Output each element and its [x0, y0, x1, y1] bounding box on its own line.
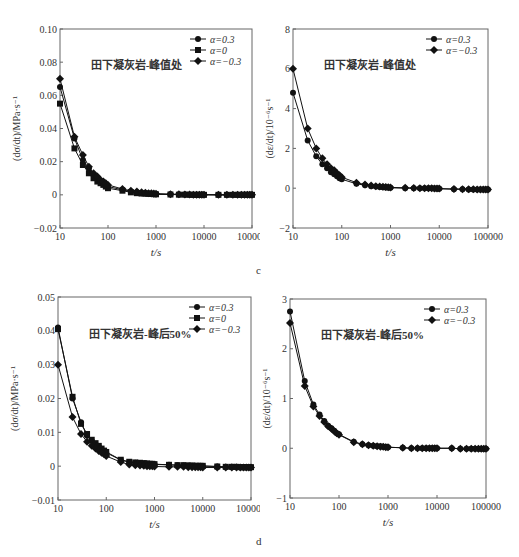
- legend-label: α=−0.3: [444, 315, 475, 326]
- y-tick-label: 1: [282, 393, 287, 404]
- diamond-marker-icon: [69, 413, 77, 421]
- diamond-marker-icon: [54, 361, 62, 369]
- y-tick-label: 0.01: [38, 427, 56, 438]
- x-tick-label: 10: [288, 231, 298, 242]
- square-marker-icon: [80, 162, 86, 168]
- diamond-marker-icon: [399, 444, 407, 452]
- y-tick-label: 0.06: [40, 90, 58, 101]
- diamond-marker-icon: [428, 316, 436, 324]
- square-marker-icon: [57, 101, 63, 107]
- legend-label: α=0.3: [444, 304, 469, 315]
- data-series: [290, 90, 491, 193]
- series-line: [58, 329, 251, 467]
- chart-c-left-svg: −0.0200.020.040.060.080.1010100100010000…: [0, 0, 260, 260]
- series-line: [60, 104, 252, 195]
- x-tick-label: 10: [285, 501, 295, 512]
- x-tick-label: 10000: [190, 503, 215, 514]
- diamond-marker-icon: [194, 57, 202, 65]
- chart-annotation: 田下凝灰岩-峰值处: [324, 58, 417, 71]
- x-tick-label: 100000: [237, 231, 260, 242]
- diamond-marker-icon: [352, 179, 360, 187]
- circle-marker-icon: [287, 308, 293, 314]
- chart-c-right-svg: −20246810100100010000100000t/s(dε/dt)/10…: [260, 0, 519, 260]
- diamond-marker-icon: [430, 46, 438, 54]
- series-line: [58, 365, 251, 468]
- y-tick-label: 0.02: [38, 393, 56, 404]
- series-line: [60, 87, 252, 195]
- circle-marker-icon: [313, 153, 319, 159]
- data-series: [54, 361, 255, 472]
- diamond-marker-icon: [448, 444, 456, 452]
- legend-label: α=−0.3: [446, 45, 477, 56]
- x-tick-label: 100000: [471, 501, 501, 512]
- x-axis-label: t/s: [151, 246, 161, 258]
- y-tick-label: 0.03: [38, 359, 56, 370]
- y-tick-label: 0.05: [38, 292, 56, 303]
- y-tick-label: 0.10: [40, 24, 58, 35]
- legend-label: α=0: [210, 45, 227, 56]
- circle-marker-icon: [431, 36, 437, 42]
- y-tick-label: 2: [285, 143, 290, 154]
- square-marker-icon: [71, 145, 77, 151]
- y-tick-label: 2: [282, 343, 287, 354]
- y-tick-label: 0: [285, 183, 290, 194]
- diamond-marker-icon: [361, 181, 369, 189]
- y-axis-label: (dε/dt)/10⁻⁶s⁻¹: [264, 98, 276, 158]
- y-axis-label: (dε/dt)/10⁻⁶s⁻¹: [261, 368, 273, 428]
- series-line: [293, 69, 488, 190]
- series-line: [290, 323, 486, 449]
- y-tick-label: 3: [282, 294, 287, 305]
- square-marker-icon: [194, 315, 200, 321]
- x-tick-label: 100000: [236, 503, 260, 514]
- x-tick-label: 100: [101, 231, 116, 242]
- circle-marker-icon: [429, 306, 435, 312]
- diamond-marker-icon: [401, 184, 409, 192]
- circle-marker-icon: [305, 137, 311, 143]
- y-tick-label: 0.04: [38, 325, 56, 336]
- x-axis-label: t/s: [385, 246, 395, 258]
- x-tick-label: 100: [334, 231, 349, 242]
- legend-label: α=0.3: [210, 34, 235, 45]
- x-tick-label: 1000: [378, 501, 398, 512]
- series-line: [58, 327, 251, 467]
- chart-d-left: −0.0100.010.020.030.040.0510100100010000…: [0, 278, 260, 528]
- y-tick-label: 0.02: [40, 156, 58, 167]
- y-axis-label: (dσ/dt)/MPa·s⁻¹: [9, 366, 21, 431]
- legend-label: α=−0.3: [210, 56, 241, 67]
- diamond-marker-icon: [289, 65, 297, 73]
- square-marker-icon: [78, 421, 84, 427]
- data-series: [57, 84, 255, 198]
- chart-d-right-svg: −1012310100100010000100000t/s(dε/dt)/10⁻…: [260, 278, 519, 528]
- x-tick-label: 1000: [146, 231, 166, 242]
- chart-annotation: 田下凝灰岩-峰后50%: [89, 327, 192, 340]
- diamond-marker-icon: [350, 438, 358, 446]
- y-axis-label: (dσ/dt)/MPa·s⁻¹: [11, 96, 23, 161]
- legend-label: α=0: [209, 313, 226, 324]
- chart-c-right: −20246810100100010000100000t/s(dε/dt)/10…: [260, 0, 519, 260]
- y-tick-label: 0: [52, 189, 57, 200]
- circle-marker-icon: [290, 90, 296, 96]
- sublabel-c: c: [256, 264, 261, 276]
- circle-marker-icon: [194, 304, 200, 310]
- data-series: [56, 75, 256, 199]
- y-tick-label: 0: [50, 461, 55, 472]
- legend-label: α=0.3: [209, 302, 234, 313]
- legend-label: α=−0.3: [209, 324, 240, 335]
- series-line: [293, 93, 488, 190]
- x-tick-label: 10: [53, 503, 63, 514]
- chart-c-left: −0.0200.020.040.060.080.1010100100010000…: [0, 0, 260, 260]
- chart-d-left-svg: −0.0100.010.020.030.040.0510100100010000…: [0, 278, 260, 528]
- chart-d-right: −1012310100100010000100000t/s(dε/dt)/10⁻…: [260, 278, 519, 528]
- x-tick-label: 100000: [473, 231, 503, 242]
- diamond-marker-icon: [56, 75, 64, 83]
- data-series: [57, 101, 255, 198]
- legend-label: α=0.3: [446, 34, 471, 45]
- x-tick-label: 10: [55, 231, 65, 242]
- x-tick-label: 10000: [192, 231, 217, 242]
- diamond-marker-icon: [193, 325, 201, 333]
- data-series: [55, 324, 254, 470]
- circle-marker-icon: [195, 36, 201, 42]
- y-tick-label: −0.02: [34, 223, 57, 234]
- diamond-marker-icon: [450, 185, 458, 193]
- x-axis-label: t/s: [149, 518, 159, 528]
